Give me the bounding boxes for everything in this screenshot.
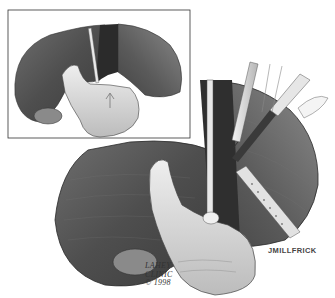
artist-signature: JMILLFRICK	[268, 246, 317, 255]
retractor	[298, 96, 328, 118]
inset-panel	[8, 10, 190, 138]
credit-line-3: © 1998	[145, 279, 173, 288]
credit-block: LAHEY CLINIC © 1998	[145, 262, 173, 288]
